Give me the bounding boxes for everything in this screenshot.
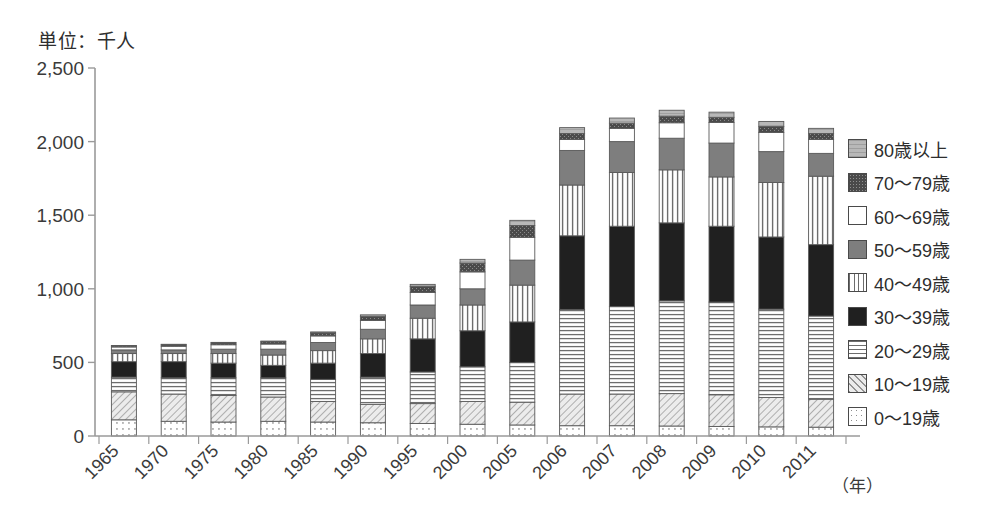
bar-segment[interactable]	[460, 367, 485, 402]
bar-group[interactable]	[659, 110, 684, 436]
bar-segment[interactable]	[261, 344, 286, 349]
bar-segment[interactable]	[161, 346, 186, 350]
bar-segment[interactable]	[560, 394, 585, 426]
bar-segment[interactable]	[111, 420, 136, 436]
bar-group[interactable]	[211, 342, 236, 436]
bar-segment[interactable]	[609, 173, 634, 227]
bar-segment[interactable]	[410, 339, 435, 372]
bar-segment[interactable]	[659, 394, 684, 426]
bar-segment[interactable]	[510, 285, 535, 322]
legend-item[interactable]: 40〜49歳	[848, 266, 950, 300]
bar-segment[interactable]	[510, 322, 535, 362]
bar-segment[interactable]	[609, 306, 634, 394]
bar-segment[interactable]	[659, 170, 684, 223]
bar-segment[interactable]	[709, 302, 734, 395]
legend-item[interactable]: 50〜59歳	[848, 233, 950, 267]
bar-segment[interactable]	[211, 345, 236, 349]
bar-segment[interactable]	[460, 272, 485, 289]
bar-segment[interactable]	[709, 226, 734, 302]
bar-group[interactable]	[560, 128, 585, 436]
bar-segment[interactable]	[261, 378, 286, 397]
bar-segment[interactable]	[410, 318, 435, 339]
bar-segment[interactable]	[759, 309, 784, 397]
legend-item[interactable]: 10〜19歳	[848, 367, 950, 401]
bar-group[interactable]	[360, 315, 385, 436]
bar-group[interactable]	[410, 284, 435, 436]
bar-segment[interactable]	[560, 128, 585, 134]
bar-segment[interactable]	[709, 426, 734, 436]
legend-item[interactable]: 60〜69歳	[848, 199, 950, 233]
bar-segment[interactable]	[360, 354, 385, 378]
bar-segment[interactable]	[211, 354, 236, 364]
bar-segment[interactable]	[360, 339, 385, 354]
bar-segment[interactable]	[709, 395, 734, 427]
bar-segment[interactable]	[111, 350, 136, 354]
bar-segment[interactable]	[809, 176, 834, 244]
bar-group[interactable]	[261, 341, 286, 436]
bar-segment[interactable]	[410, 404, 435, 424]
bar-segment[interactable]	[759, 132, 784, 151]
bar-segment[interactable]	[759, 152, 784, 183]
bar-segment[interactable]	[709, 112, 734, 117]
bar-segment[interactable]	[809, 427, 834, 436]
bar-segment[interactable]	[560, 185, 585, 236]
legend-item[interactable]: 80歳以上	[848, 132, 950, 166]
bar-segment[interactable]	[759, 237, 784, 309]
bar-segment[interactable]	[410, 292, 435, 305]
bar-segment[interactable]	[460, 263, 485, 272]
bar-segment[interactable]	[410, 305, 435, 318]
bar-segment[interactable]	[211, 396, 236, 423]
bar-group[interactable]	[609, 118, 634, 436]
bar-segment[interactable]	[311, 401, 336, 422]
bar-segment[interactable]	[609, 394, 634, 426]
bar-segment[interactable]	[460, 259, 485, 263]
bar-segment[interactable]	[410, 423, 435, 436]
bar-segment[interactable]	[510, 220, 535, 225]
bar-segment[interactable]	[759, 127, 784, 133]
bar-segment[interactable]	[211, 363, 236, 378]
bar-group[interactable]	[809, 128, 834, 436]
bar-segment[interactable]	[510, 362, 535, 402]
bar-segment[interactable]	[659, 110, 684, 116]
bar-segment[interactable]	[161, 378, 186, 394]
bar-segment[interactable]	[311, 351, 336, 364]
bar-group[interactable]	[460, 259, 485, 436]
bar-segment[interactable]	[709, 122, 734, 143]
bar-segment[interactable]	[211, 422, 236, 436]
bar-segment[interactable]	[659, 301, 684, 394]
bar-segment[interactable]	[410, 287, 435, 293]
bar-segment[interactable]	[709, 143, 734, 177]
bar-segment[interactable]	[659, 123, 684, 138]
bar-segment[interactable]	[360, 329, 385, 339]
bar-segment[interactable]	[510, 402, 535, 425]
bar-segment[interactable]	[560, 309, 585, 394]
bar-segment[interactable]	[759, 397, 784, 426]
bar-segment[interactable]	[211, 342, 236, 343]
bar-segment[interactable]	[360, 320, 385, 329]
legend-item[interactable]: 70〜79歳	[848, 166, 950, 200]
bar-segment[interactable]	[261, 397, 286, 421]
bar-segment[interactable]	[111, 354, 136, 362]
bar-segment[interactable]	[311, 343, 336, 351]
bar-segment[interactable]	[609, 226, 634, 306]
legend-item[interactable]: 0〜19歳	[848, 400, 950, 434]
bar-segment[interactable]	[659, 426, 684, 436]
bar-segment[interactable]	[410, 372, 435, 404]
bar-segment[interactable]	[809, 399, 834, 427]
bar-segment[interactable]	[311, 363, 336, 379]
bar-group[interactable]	[111, 345, 136, 436]
bar-segment[interactable]	[311, 336, 336, 343]
bar-segment[interactable]	[560, 139, 585, 150]
bar-segment[interactable]	[161, 344, 186, 345]
bar-segment[interactable]	[560, 426, 585, 436]
bar-segment[interactable]	[360, 423, 385, 436]
bar-segment[interactable]	[111, 362, 136, 377]
bar-segment[interactable]	[809, 134, 834, 140]
bar-segment[interactable]	[460, 305, 485, 331]
bar-segment[interactable]	[560, 150, 585, 185]
bar-segment[interactable]	[211, 378, 236, 396]
bar-segment[interactable]	[609, 123, 634, 128]
bar-segment[interactable]	[111, 392, 136, 420]
bar-segment[interactable]	[360, 377, 385, 404]
bar-segment[interactable]	[360, 316, 385, 320]
